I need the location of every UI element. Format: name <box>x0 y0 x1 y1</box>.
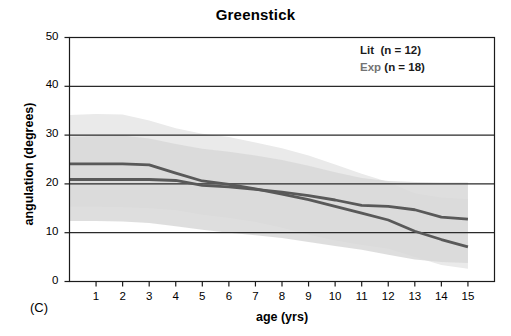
x-tick-label-13: 13 <box>405 290 425 302</box>
x-tick-label-2: 2 <box>113 290 133 302</box>
x-tick-label-3: 3 <box>139 290 159 302</box>
y-tick-label-0: 0 <box>29 274 59 286</box>
legend-detail-exp: (n = 18) <box>384 61 425 73</box>
x-tick-label-10: 10 <box>325 290 345 302</box>
legend: Lit (n = 12) Exp (n = 18) <box>360 42 425 76</box>
y-tick-label-40: 40 <box>29 78 59 90</box>
legend-key-lit: Lit <box>360 44 374 56</box>
x-tick-label-14: 14 <box>431 290 451 302</box>
panel-label: (C) <box>30 300 48 315</box>
x-tick-label-1: 1 <box>86 290 106 302</box>
y-tick-label-10: 10 <box>29 225 59 237</box>
x-tick-label-8: 8 <box>272 290 292 302</box>
plot-area <box>0 0 511 336</box>
legend-item-lit: Lit (n = 12) <box>360 42 425 59</box>
legend-detail-lit: (n = 12) <box>380 44 421 56</box>
figure-panel-c: Greenstick angulation (degrees) age (yrs… <box>0 0 511 336</box>
x-tick-label-5: 5 <box>192 290 212 302</box>
x-tick-label-9: 9 <box>299 290 319 302</box>
x-tick-label-12: 12 <box>378 290 398 302</box>
legend-item-exp: Exp (n = 18) <box>360 59 425 76</box>
x-tick-label-15: 15 <box>458 290 478 302</box>
y-tick-label-50: 50 <box>29 30 59 42</box>
x-tick-label-4: 4 <box>166 290 186 302</box>
y-tick-label-30: 30 <box>29 127 59 139</box>
x-tick-label-6: 6 <box>219 290 239 302</box>
x-tick-label-7: 7 <box>245 290 265 302</box>
x-axis-label: age (yrs) <box>69 310 495 324</box>
y-tick-label-20: 20 <box>29 176 59 188</box>
x-tick-label-11: 11 <box>352 290 372 302</box>
legend-key-exp: Exp <box>360 61 381 73</box>
